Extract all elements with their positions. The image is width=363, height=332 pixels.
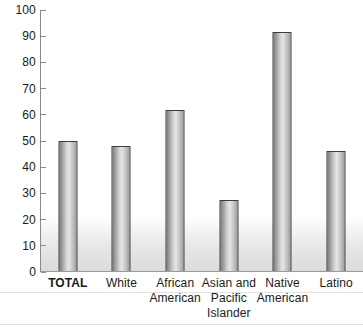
bar[interactable]	[58, 141, 77, 272]
y-axis-tick-label: 30	[6, 187, 36, 199]
bar[interactable]	[112, 146, 131, 272]
y-axis-tick-label: 40	[6, 161, 36, 173]
x-axis-baseline	[41, 271, 363, 272]
bar-slot	[256, 10, 310, 272]
bar-slot	[148, 10, 202, 272]
x-axis-label-line: Latino	[303, 276, 363, 291]
y-axis-tick-label: 10	[6, 240, 36, 252]
y-axis-tick-label: 50	[6, 135, 36, 147]
y-axis-tick-label: 70	[6, 83, 36, 95]
divider-line-lower	[0, 324, 363, 325]
y-axis-tick-label: 0	[6, 266, 36, 278]
bar[interactable]	[327, 151, 346, 272]
x-axis-label: Latino	[303, 276, 363, 291]
bar-slot	[95, 10, 149, 272]
bar[interactable]	[166, 110, 185, 272]
y-axis-tick-label: 100	[6, 4, 36, 16]
bar[interactable]	[219, 200, 238, 272]
y-axis-tick-label: 80	[6, 56, 36, 68]
bar-slot	[41, 10, 95, 272]
bar[interactable]	[273, 32, 292, 272]
plot-area	[41, 10, 363, 272]
y-axis-tick-label: 60	[6, 109, 36, 121]
x-axis-label-line: American	[250, 291, 316, 306]
bar-series	[41, 10, 363, 272]
bar-slot	[202, 10, 256, 272]
y-axis-tick-label: 90	[6, 30, 36, 42]
divider-line-upper	[0, 292, 363, 293]
bar-slot	[309, 10, 363, 272]
y-axis-tick-label: 20	[6, 214, 36, 226]
x-axis-label-line: Islander	[196, 306, 262, 321]
bar-chart: 1009080706050403020100 TOTALWhiteAfrican…	[0, 0, 363, 332]
